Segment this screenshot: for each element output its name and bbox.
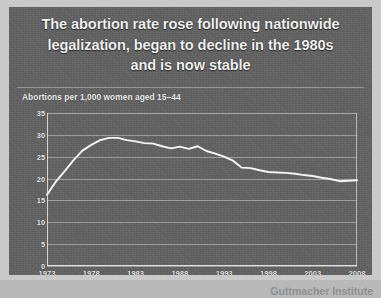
title-divider xyxy=(17,87,364,88)
y-tick-label-20: 20 xyxy=(27,175,45,184)
chart-subtitle: Abortions per 1,000 women aged 15–44 xyxy=(22,92,181,102)
x-tick-label-1988: 1988 xyxy=(171,269,188,275)
source-attribution: Guttmacher Institute xyxy=(0,281,381,298)
y-tick-label-15: 15 xyxy=(27,196,45,205)
x-tick-label-1998: 1998 xyxy=(260,269,277,275)
series-line-path xyxy=(47,138,357,195)
y-tick-label-30: 30 xyxy=(27,131,45,140)
abortion-rate-line-series xyxy=(47,113,357,266)
x-tick-label-1983: 1983 xyxy=(127,269,144,275)
source-attribution-text: Guttmacher Institute xyxy=(270,285,373,297)
chart-title-line-1: The abortion rate rose following nationw… xyxy=(23,14,358,35)
x-axis-labels: 19731978198319881993199820032008 xyxy=(47,269,365,275)
x-tick-label-2008: 2008 xyxy=(349,269,366,275)
gridline-0 xyxy=(47,266,357,267)
y-tick-label-5: 5 xyxy=(27,240,45,249)
x-tick-label-1973: 1973 xyxy=(39,269,56,275)
chart-panel: The abortion rate rose following nationw… xyxy=(9,7,372,275)
plot-border-top xyxy=(47,113,357,114)
plot-border-right xyxy=(356,113,357,266)
chart-title: The abortion rate rose following nationw… xyxy=(9,7,372,87)
chart-title-line-2: legalization, began to decline in the 19… xyxy=(23,35,358,56)
x-tick-label-1993: 1993 xyxy=(216,269,233,275)
x-tick-label-1978: 1978 xyxy=(83,269,100,275)
image-frame: The abortion rate rose following nationw… xyxy=(0,0,381,280)
x-axis-line xyxy=(47,265,357,266)
y-axis-labels: 05101520253035 xyxy=(27,113,45,266)
y-tick-label-25: 25 xyxy=(27,153,45,162)
x-tick-label-2003: 2003 xyxy=(304,269,321,275)
y-tick-label-35: 35 xyxy=(27,109,45,118)
plot-area xyxy=(47,113,357,266)
y-axis-line xyxy=(47,113,48,266)
y-tick-label-10: 10 xyxy=(27,218,45,227)
chart-title-line-3: and is now stable xyxy=(23,55,358,76)
